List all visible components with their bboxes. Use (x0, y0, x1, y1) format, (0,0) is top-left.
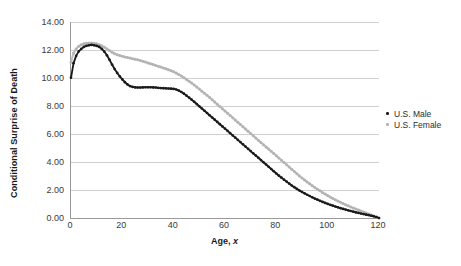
data-point (213, 118, 216, 121)
data-point (118, 75, 121, 78)
data-point (296, 188, 299, 191)
data-point (144, 61, 147, 64)
y-axis-title: Conditional Surprise of Death (4, 0, 24, 266)
data-point (183, 92, 186, 95)
data-point (113, 68, 116, 71)
data-point (131, 57, 134, 60)
data-point (334, 198, 337, 201)
y-axis-title-label: Conditional Surprise of Death (9, 68, 19, 198)
data-point (195, 85, 198, 88)
data-point (265, 145, 268, 148)
data-point (95, 44, 98, 47)
data-point (331, 204, 334, 207)
data-point (149, 62, 152, 65)
data-point (231, 134, 234, 137)
data-point (313, 197, 316, 200)
y-axis-tick: 8.00 (46, 101, 64, 111)
data-point (221, 125, 224, 128)
data-point (172, 70, 175, 73)
data-point (355, 211, 358, 214)
data-point (367, 214, 370, 217)
data-point (142, 86, 145, 89)
data-point (80, 48, 83, 51)
data-point (262, 161, 265, 164)
data-point (118, 54, 121, 57)
data-point (200, 90, 203, 93)
legend-label-female: U.S. Female (394, 120, 441, 130)
data-point (373, 215, 376, 218)
data-point (154, 64, 157, 67)
data-point (190, 98, 193, 101)
data-point (265, 163, 268, 166)
data-point (326, 194, 329, 197)
data-point (131, 86, 134, 89)
data-point (229, 114, 232, 117)
data-point (221, 107, 224, 110)
data-point (208, 114, 211, 117)
data-point (224, 110, 227, 113)
data-point (316, 188, 319, 191)
data-point (100, 48, 103, 51)
data-point (290, 184, 293, 187)
data-point (334, 205, 337, 208)
data-point (339, 201, 342, 204)
data-point (234, 119, 237, 122)
data-point (147, 61, 150, 64)
data-point (254, 154, 257, 157)
data-point (293, 170, 296, 173)
x-axis-title-label: Age, x (211, 236, 238, 246)
data-point (257, 139, 260, 142)
plot-area (70, 22, 379, 219)
data-point (239, 123, 242, 126)
data-point (126, 83, 129, 86)
data-point (136, 86, 139, 89)
data-point (111, 63, 114, 66)
data-point (170, 87, 173, 90)
data-point (326, 203, 329, 206)
data-point (360, 212, 363, 215)
legend-marker-male-icon (384, 110, 391, 117)
data-point (129, 85, 132, 88)
data-point (234, 136, 237, 139)
data-point (272, 152, 275, 155)
data-point (290, 168, 293, 171)
gridlines (71, 22, 379, 190)
data-point (159, 66, 162, 69)
data-point (216, 121, 219, 124)
data-point (236, 139, 239, 142)
data-point (211, 116, 214, 119)
data-point (270, 168, 273, 171)
data-point (116, 72, 119, 75)
data-point (147, 86, 150, 89)
data-point (280, 159, 283, 162)
data-point (236, 121, 239, 124)
y-axis-tick: 6.00 (46, 129, 64, 139)
data-point (280, 176, 283, 179)
data-point (224, 127, 227, 130)
data-point (252, 152, 255, 155)
data-point (331, 197, 334, 200)
data-point (157, 65, 160, 68)
data-point (311, 184, 314, 187)
data-point (357, 209, 360, 212)
y-axis-tick: 4.00 (46, 157, 64, 167)
data-point (193, 84, 196, 87)
data-point (306, 193, 309, 196)
data-point (172, 88, 175, 91)
data-point (121, 78, 124, 81)
data-point (190, 82, 193, 85)
data-point (219, 123, 222, 126)
data-point (85, 42, 88, 45)
data-point (149, 86, 152, 89)
x-axis-tick: 0 (67, 220, 72, 230)
data-point (75, 55, 78, 58)
data-point (283, 161, 286, 164)
data-point (231, 116, 234, 119)
data-point (318, 189, 321, 192)
data-point (247, 147, 250, 150)
data-point (159, 87, 162, 90)
data-point (211, 98, 214, 101)
data-point (201, 107, 204, 110)
data-point (242, 143, 245, 146)
data-point (177, 73, 180, 76)
